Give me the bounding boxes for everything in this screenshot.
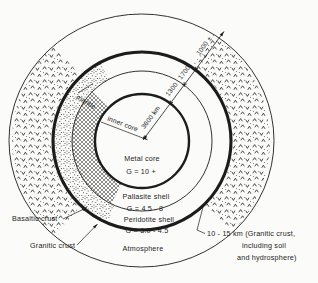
crust-note-line3: and hydrosphere) <box>237 253 297 262</box>
crust-note: 10 - 15 km (Granitic crust, including so… <box>197 207 297 262</box>
dim-label-core-radius: 3600 km <box>140 104 162 130</box>
crust-note-line2: including soil <box>242 241 286 250</box>
metal-core-g-value: G = 10 + <box>126 167 156 176</box>
pallasite-shell-label: Pallasite shell <box>123 192 170 201</box>
diagram-canvas: 3600 km 1300 1700 1000 ± mantle inner co… <box>0 0 318 283</box>
basaltic-crust-label-text: Basaltic crust <box>12 214 58 223</box>
granitic-crust-label-text: Granitic crust <box>30 241 75 250</box>
granitic-crust-label: Granitic crust <box>30 224 98 250</box>
metal-core-label: Metal core <box>124 154 160 163</box>
crust-note-line1: 10 - 15 km (Granitic crust, <box>207 229 295 238</box>
peridotite-shell-label: Peridotite shell <box>124 215 175 224</box>
atmosphere-label: Atmosphere <box>123 244 164 253</box>
peridotite-g-value: G = 3.0 - 4.5 <box>126 226 169 235</box>
pallasite-g-value: G = 4.5 - 8 <box>127 204 163 213</box>
inner-core-label-text: inner core <box>107 115 140 133</box>
earth-structure-diagram: 3600 km 1300 1700 1000 ± mantle inner co… <box>0 0 318 283</box>
